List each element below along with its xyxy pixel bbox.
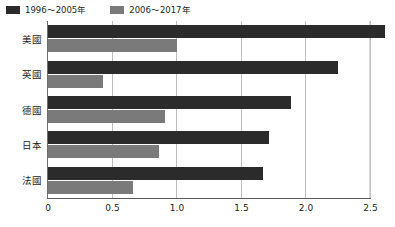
x-axis-tick-label: 0 <box>45 203 51 214</box>
legend-swatch-series-1 <box>6 6 20 14</box>
bar-英國-series-1 <box>48 61 338 74</box>
bar-英國-series-2 <box>48 75 103 88</box>
category-label-2: 英國 <box>0 69 42 80</box>
legend-swatch-series-2 <box>110 6 124 14</box>
bar-日本-series-1 <box>48 131 269 144</box>
gridline-2.0 <box>305 21 306 199</box>
category-label-4: 日本 <box>0 139 42 150</box>
bar-美國-series-1 <box>48 25 385 38</box>
category-label-3: 德國 <box>0 104 42 115</box>
legend-label-series-2: 2006～2017年 <box>129 6 190 15</box>
x-axis-tick-label: 2.5 <box>363 203 377 214</box>
legend-entry-series-2: 2006～2017年 <box>110 6 190 15</box>
bar-德國-series-1 <box>48 96 291 109</box>
bar-法國-series-1 <box>48 167 263 180</box>
category-label-5: 法國 <box>0 175 42 186</box>
bar-德國-series-2 <box>48 110 165 123</box>
bar-美國-series-2 <box>48 39 177 52</box>
legend-label-series-1: 1996～2005年 <box>25 6 86 15</box>
x-axis-tick-label: 0.5 <box>105 203 119 214</box>
chart-legend: 1996～2005年 2006～2017年 <box>6 3 191 17</box>
bar-法國-series-2 <box>48 181 133 194</box>
x-axis-tick-label: 2.0 <box>299 203 313 214</box>
gridline-2.5 <box>370 21 371 199</box>
bar-日本-series-2 <box>48 145 159 158</box>
x-axis-line <box>47 198 371 199</box>
x-axis-tick-label: 1.0 <box>170 203 184 214</box>
x-axis-tick-label: 1.5 <box>234 203 248 214</box>
category-label-1: 美國 <box>0 33 42 44</box>
legend-entry-series-1: 1996～2005年 <box>6 6 86 15</box>
bar-chart: 1996～2005年 2006～2017年 00.51.01.52.02.5美國… <box>0 0 395 227</box>
